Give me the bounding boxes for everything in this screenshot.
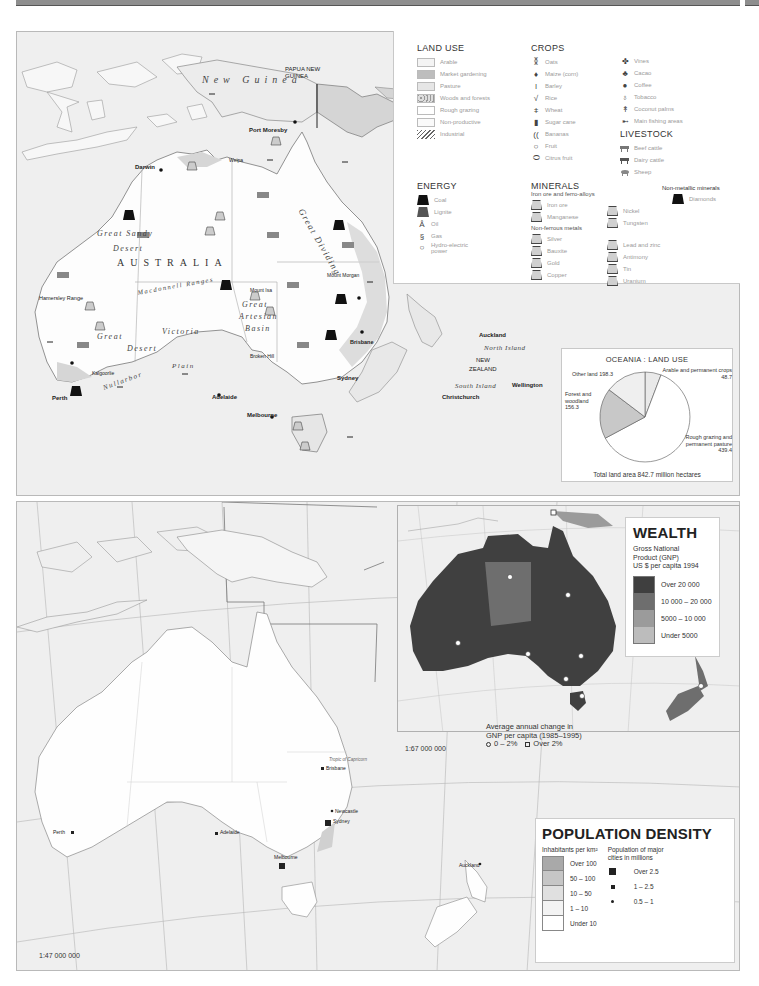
label-auckland: Auckland bbox=[479, 332, 506, 338]
rough-grazing-swatch bbox=[417, 106, 435, 115]
antimony-icon bbox=[607, 252, 618, 262]
legend-livestock-title: LIVESTOCK bbox=[620, 129, 683, 139]
non-productive-swatch bbox=[417, 118, 435, 127]
wealth-swatch-10000-20000 bbox=[633, 593, 655, 610]
label-sydney: Sydney bbox=[337, 375, 358, 381]
diamonds-icon bbox=[672, 194, 684, 204]
label-new-zealand-1: NEW bbox=[476, 357, 490, 363]
page-header-bar-right bbox=[745, 0, 759, 6]
wheat-icon: ǂ bbox=[531, 105, 541, 115]
legend-item: Rough grazing bbox=[417, 104, 490, 116]
label-perth: Perth bbox=[52, 395, 67, 401]
label-brisbane: Brisbane bbox=[350, 339, 374, 345]
barley-icon: ǀ bbox=[531, 81, 541, 91]
label-great-artesian-3: Basin bbox=[245, 324, 271, 333]
label-darwin: Darwin bbox=[135, 164, 155, 170]
density-swatch-10-50 bbox=[542, 886, 564, 901]
label-sandy-desert: Desert bbox=[113, 244, 143, 253]
lignite-icon bbox=[417, 207, 429, 217]
oceania-land-use-pie: OCEANIA : LAND USE Other land 198.3 Arab… bbox=[561, 348, 733, 482]
tin-icon bbox=[607, 264, 618, 274]
legend-minerals-2: Nickel Tungsten Lead and zinc Antimony T… bbox=[607, 205, 660, 287]
label-adelaide: Adelaide bbox=[212, 394, 237, 400]
legend-item: Woods and forests bbox=[417, 92, 490, 104]
label-broken-hill: Broken Hill bbox=[250, 353, 274, 359]
city-size-legend: Population of major cities in millions O… bbox=[608, 842, 664, 931]
density-swatch-1-10 bbox=[542, 901, 564, 916]
copper-icon bbox=[531, 270, 542, 280]
label-great-artesian-1: Great bbox=[242, 300, 268, 309]
pie-total: Total land area 842.7 million hectares bbox=[562, 471, 732, 478]
coffee-icon: ● bbox=[620, 80, 630, 90]
wealth-scale: 1:67 000 000 bbox=[405, 745, 446, 752]
square-icon bbox=[525, 742, 530, 747]
label-kalgoorlie: Kalgoorlie bbox=[92, 370, 114, 376]
woods-swatch bbox=[417, 94, 435, 103]
coconut-palm-icon: ↟ bbox=[620, 104, 630, 114]
oats-icon: ⁑ bbox=[531, 57, 541, 67]
pie-chart bbox=[597, 369, 693, 465]
label-great-victoria-3: Desert bbox=[127, 344, 157, 353]
legend-nonmetallic: Non-metallic minerals Diamonds bbox=[662, 183, 720, 205]
legend-crops-title: CROPS bbox=[531, 43, 578, 53]
density-swatch-50-100 bbox=[542, 871, 564, 886]
label-wellington: Wellington bbox=[512, 382, 543, 388]
city-small-icon bbox=[611, 900, 614, 903]
wealth-class: Under 5000 bbox=[633, 627, 712, 644]
label-weipa: Weipa bbox=[229, 157, 243, 163]
lead-zinc-icon bbox=[607, 240, 618, 250]
label-port-moresby: Port Moresby bbox=[249, 127, 287, 133]
wealth-class: 5000 – 10 000 bbox=[633, 610, 712, 627]
legend-crops: CROPS ⁑Oats ♦Maize (corn) ǀBarley √Rice … bbox=[531, 43, 578, 164]
density-class: Under 10 bbox=[542, 916, 598, 931]
legend-item: Arable bbox=[417, 56, 490, 68]
density-class: 50 – 100 bbox=[542, 871, 598, 886]
citrus-icon: ⬭ bbox=[531, 153, 541, 163]
maize-icon: ♦ bbox=[531, 69, 541, 79]
label-melbourne: Melbourne bbox=[274, 854, 298, 860]
dairy-cattle-icon bbox=[620, 155, 630, 165]
legend-land-use-title: LAND USE bbox=[417, 43, 490, 53]
legend-item: Industrial bbox=[417, 128, 490, 140]
label-brisbane: Brisbane bbox=[326, 765, 346, 771]
fruit-icon: ○ bbox=[531, 141, 541, 151]
density-class: 10 – 50 bbox=[542, 886, 598, 901]
tungsten-icon bbox=[607, 218, 618, 228]
coal-icon bbox=[417, 195, 429, 205]
sugar-cane-icon: ▮ bbox=[531, 117, 541, 127]
label-nullarbor-plain: Plain bbox=[172, 362, 195, 370]
legend-land-use: LAND USE Arable Market gardening Pasture… bbox=[417, 43, 490, 140]
population-scale: 1:47 000 000 bbox=[39, 952, 80, 959]
pie-label-arable: Arable and permanent crops 48.7 bbox=[657, 367, 732, 380]
bananas-icon: (( bbox=[531, 129, 541, 139]
legend-crops-2: ✤Vines ♣Cacao ●Coffee ♁Tobacco ↟Coconut … bbox=[620, 55, 683, 178]
wealth-class: 10 000 – 20 000 bbox=[633, 593, 712, 610]
iron-ore-icon bbox=[531, 200, 542, 210]
label-papua-new-guinea: PAPUA NEW GUINEA bbox=[285, 66, 325, 80]
label-great-victoria-1: Great bbox=[97, 332, 123, 341]
gas-icon: § bbox=[417, 231, 427, 241]
gold-icon bbox=[531, 258, 542, 268]
label-hamersley-range: Hamersley Range bbox=[39, 295, 83, 301]
label-melbourne: Melbourne bbox=[247, 412, 277, 418]
uranium-icon bbox=[607, 276, 618, 286]
arable-swatch bbox=[417, 58, 435, 67]
pie-label-other: Other land 198.3 bbox=[572, 371, 613, 378]
wealth-swatch-5000-10000 bbox=[633, 610, 655, 627]
label-perth: Perth bbox=[53, 829, 65, 835]
population-title: POPULATION DENSITY bbox=[542, 825, 728, 842]
gnp-change-note: Average annual change in GNP per capita … bbox=[486, 723, 582, 749]
nickel-icon bbox=[607, 206, 618, 216]
label-new-zealand-2: ZEALAND bbox=[469, 366, 497, 372]
legend-minerals: MINERALS Iron ore and ferro-alloys Iron … bbox=[531, 181, 595, 281]
label-great-artesian-2: Artesian bbox=[239, 312, 278, 321]
density-swatch-under-10 bbox=[542, 916, 564, 931]
wealth-swatch-over-20000 bbox=[633, 576, 655, 593]
label-australia: AUSTRALIA bbox=[117, 257, 228, 268]
circle-icon bbox=[486, 742, 491, 747]
tobacco-icon: ♁ bbox=[620, 92, 630, 102]
land-use-legend: LAND USE Arable Market gardening Pasture… bbox=[393, 31, 740, 284]
legend-energy-title: ENERGY bbox=[417, 181, 477, 191]
wealth-swatch-under-5000 bbox=[633, 627, 655, 644]
label-great-victoria-2: Victoria bbox=[162, 327, 200, 336]
